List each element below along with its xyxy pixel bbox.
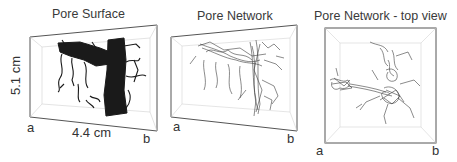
pore-network-box bbox=[171, 25, 297, 131]
pore-surface-box bbox=[30, 25, 157, 131]
pore-surface-render bbox=[58, 38, 146, 116]
figure: Pore Surface 5.1 cm a 4.4 cm b Pore Netw… bbox=[0, 0, 457, 162]
pore-network-render bbox=[190, 40, 284, 116]
top-view-render bbox=[330, 42, 420, 124]
figure-graphics bbox=[0, 0, 457, 162]
